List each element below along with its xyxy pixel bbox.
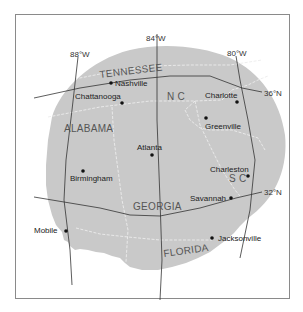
map-canvas: 88°W 84°W 80°W 36°N 32°N TENNESSEE N C A… [0,0,303,312]
state-label-north-carolina: N C [167,91,185,102]
city-dot-icon [64,229,68,233]
city-label: Greenville [205,122,242,131]
city-dot-icon [81,169,85,173]
city-dot-icon [204,116,208,120]
city-dot-icon [150,153,154,157]
city-dot-icon [229,196,233,200]
city-dot-icon [246,174,250,178]
map-figure: 88°W 84°W 80°W 36°N 32°N TENNESSEE N C A… [0,0,303,312]
city-label: Atlanta [137,143,162,152]
parallel-label-32n: 32°N [264,188,282,197]
city-dot-icon [109,81,113,85]
city-nashville: Nashville [109,79,148,88]
state-label-georgia: GEORGIA [133,201,182,212]
city-label: Jacksonville [218,234,262,243]
state-label-south-carolina: S C [229,173,247,184]
city-label: Savannah [190,194,226,203]
meridian-label-88w: 88°W [70,50,90,59]
meridian-label-84w: 84°W [146,34,166,43]
state-label-alabama: ALABAMA [64,123,113,134]
parallel-label-36n: 36°N [264,89,282,98]
city-dot-icon [235,100,239,104]
city-label: Nashville [115,79,148,88]
city-label: Charlotte [205,91,238,100]
city-label: Chattanooga [75,92,121,101]
meridian-label-80w: 80°W [227,49,247,58]
city-label: Birmingham [70,174,113,183]
city-label: Charleston [210,165,249,174]
city-dot-icon [210,236,214,240]
city-jacksonville: Jacksonville [210,234,261,243]
city-dot-icon [120,101,124,105]
city-label: Mobile [34,226,58,235]
